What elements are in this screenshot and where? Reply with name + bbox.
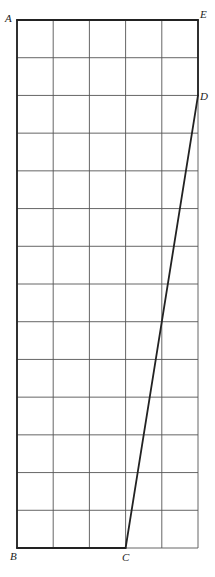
label-c: C — [122, 551, 130, 563]
point-labels: A E D B C — [4, 8, 208, 563]
label-a: A — [4, 12, 12, 24]
grid-diagram: A E D B C — [0, 0, 215, 577]
grid-lines — [17, 20, 198, 548]
label-b: B — [10, 550, 17, 562]
label-d: D — [199, 90, 208, 102]
label-e: E — [199, 8, 207, 20]
